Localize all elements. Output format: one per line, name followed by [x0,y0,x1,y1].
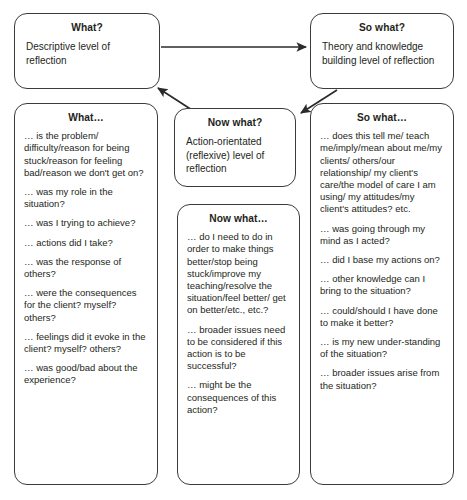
box-so-what-level-subtitle: Theory and knowledge building level of r… [320,40,444,67]
question-item: … was going through my mind as I acted? [320,223,444,247]
question-item: … broader issues need to be considered i… [187,324,290,373]
box-what-level-title: What? [24,22,150,34]
box-what-questions-title: What… [24,112,148,124]
question-item: … actions did I take? [24,237,148,249]
now-what-question-list: … do I need to do in order to make thing… [187,231,290,416]
question-item: … is the problem/ difficulty/reason for … [24,130,148,179]
question-item: … does this tell me/ teach me/imply/mean… [320,130,444,215]
box-so-what-level: So what? Theory and knowledge building l… [310,13,454,89]
box-now-what-questions: Now what… … do I need to do in order to … [177,204,300,485]
box-now-what-level-title: Now what? [184,117,286,129]
question-item: … could/should I have done to make it be… [320,305,444,329]
box-so-what-questions-title: So what… [320,112,444,124]
question-item: … broader issues arise from the situatio… [320,367,444,391]
box-now-what-level-subtitle: Action-orientated (reflexive) level of r… [184,135,286,175]
what-question-list: … is the problem/ difficulty/reason for … [24,130,148,386]
box-now-what-questions-title: Now what… [187,213,290,225]
diagram-canvas: What? Descriptive level of reflection So… [0,0,467,500]
box-so-what-level-title: So what? [320,22,444,34]
question-item: … is my new under-standing of the situat… [320,336,444,360]
question-item: … did I base my actions on? [320,254,444,266]
box-what-level: What? Descriptive level of reflection [14,13,160,89]
box-what-questions: What… … is the problem/ difficulty/reaso… [14,103,158,485]
question-item: … might be the consequences of this acti… [187,379,290,416]
so-what-question-list: … does this tell me/ teach me/imply/mean… [320,130,444,392]
question-item: … feelings did it evoke in the client? m… [24,331,148,355]
box-now-what-level: Now what? Action-orientated (reflexive) … [174,108,296,187]
box-so-what-questions: So what… … does this tell me/ teach me/i… [310,103,454,485]
question-item: … was the response of others? [24,256,148,280]
question-item: … other knowledge can I bring to the sit… [320,273,444,297]
question-item: … were the consequences for the client? … [24,287,148,324]
box-what-level-subtitle: Descriptive level of reflection [24,40,150,67]
question-item: … do I need to do in order to make thing… [187,231,290,316]
question-item: … was my role in the situation? [24,186,148,210]
arrow-now-what-to-what [158,88,192,110]
question-item: … was I trying to achieve? [24,217,148,229]
question-item: … was good/bad about the experience? [24,362,148,386]
